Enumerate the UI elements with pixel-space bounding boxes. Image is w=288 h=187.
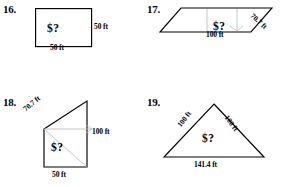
problem-16: 16. $? 50 ft 50 ft	[0, 0, 144, 93]
square-right-label: 50 ft	[94, 23, 108, 31]
parallelogram-bottom-label: 100 ft	[206, 31, 224, 39]
problem-number-17: 17.	[147, 4, 160, 15]
triangle-bottom-label: 141.4 ft	[194, 161, 217, 169]
right-trapezoid-figure	[44, 101, 98, 179]
problem-number-16: 16.	[3, 4, 16, 15]
problem-17: 17. $? 70.7 ft 100 ft	[144, 0, 288, 93]
trapezoid-interior-label: $?	[51, 141, 63, 153]
square-bottom-label: 50 ft	[50, 44, 64, 52]
triangle-interior-label: $?	[202, 132, 214, 144]
trapezoid-right-label: 100 ft	[92, 128, 110, 136]
trapezoid-bottom-label: 50 ft	[52, 171, 66, 179]
problem-19: 19. $? 100 ft 100 ft 141.4 ft	[144, 93, 288, 187]
triangle-figure	[164, 103, 274, 163]
worksheet-page: 16. $? 50 ft 50 ft 17. $? 70.7 ft 100 ft…	[0, 0, 288, 187]
problem-18: 18. $? 70.7 ft 100 ft 50 ft	[0, 93, 144, 187]
problem-number-19: 19.	[147, 97, 160, 108]
problem-number-18: 18.	[3, 97, 16, 108]
square-interior-label: $?	[47, 22, 59, 34]
square-figure	[35, 8, 97, 50]
trapezoid-hypotenuse-label: 70.7 ft	[22, 95, 42, 114]
